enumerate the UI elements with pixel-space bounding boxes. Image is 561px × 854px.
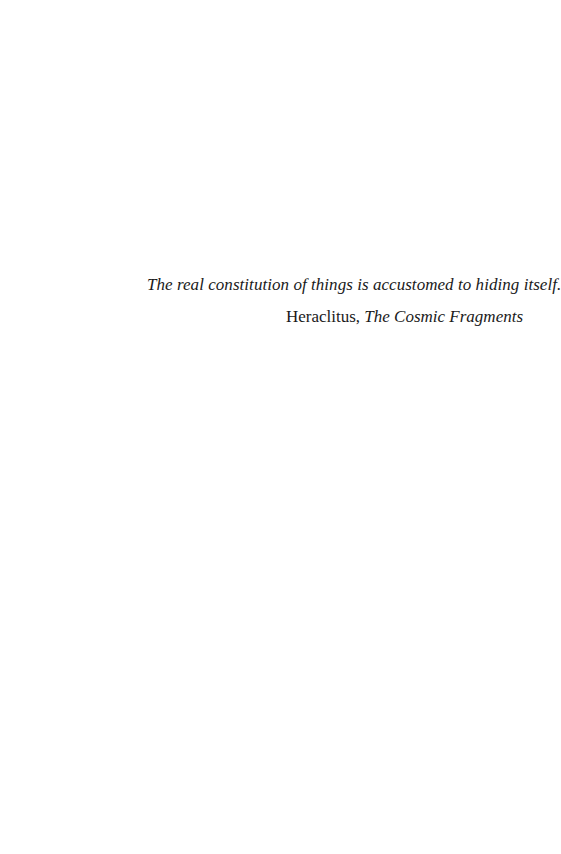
attribution-work-title: The Cosmic Fragments	[364, 307, 523, 326]
epigraph-quote: The real constitution of things is accus…	[147, 274, 561, 296]
epigraph-attribution: Heraclitus, The Cosmic Fragments	[286, 306, 523, 328]
attribution-author: Heraclitus,	[286, 307, 360, 326]
